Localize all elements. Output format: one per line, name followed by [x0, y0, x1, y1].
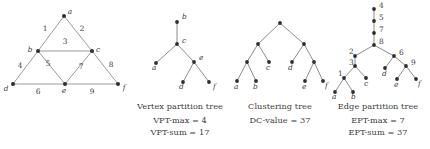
- graph-vertex-label-e: e: [62, 86, 67, 95]
- graph-vertex-label-d: d: [4, 84, 9, 93]
- dc-value: DC-value = 37: [228, 115, 332, 127]
- figure-container: 123456789abcdef bcaedf Vertex partition …: [0, 0, 430, 149]
- ept-sum-value: EPT-sum = 37: [326, 127, 430, 139]
- ept-max-value: EPT-max = 7: [326, 115, 430, 127]
- ct-edge: [247, 62, 256, 81]
- ct-edge: [237, 62, 247, 81]
- graph-edge-label-8: 8: [109, 60, 114, 69]
- vpt-label-f: f: [212, 82, 217, 91]
- ept-label-d: d: [382, 69, 387, 78]
- vpt-max-value: VPT-max = 4: [128, 115, 232, 127]
- graph-vertex-label-c: c: [96, 45, 100, 54]
- ept-edge: [406, 66, 416, 79]
- ct-node-r: [278, 21, 282, 25]
- ct-edge: [247, 44, 258, 62]
- graph-edge-label-1: 1: [43, 24, 48, 33]
- ept-node-7: [372, 31, 376, 35]
- ept-node-8: [372, 43, 376, 47]
- vpt-node-f: [207, 80, 211, 84]
- ept-edge: [394, 56, 406, 66]
- ct-edge: [304, 44, 314, 62]
- graph-edge-label-3: 3: [63, 37, 68, 46]
- ept-label-8: 8: [379, 37, 384, 46]
- ept-caption-title: Edge partition tree: [326, 101, 430, 113]
- panel-vertex-partition-tree: bcaedf Vertex partition tree VPT-max = 4…: [128, 0, 232, 149]
- vpt-caption-title: Vertex partition tree: [128, 101, 232, 113]
- ept-label-7: 7: [379, 25, 384, 34]
- vpt-node-c: [175, 42, 179, 46]
- ct-caption-title: Clustering tree: [228, 101, 332, 113]
- ept-label-9: 9: [411, 58, 416, 67]
- graph-edge-1: [38, 16, 64, 51]
- ct-edge: [314, 62, 323, 81]
- vpt-sum-value: VPT-sum = 17: [128, 127, 232, 139]
- graph-vertex-label-a: a: [68, 7, 72, 16]
- ept-label-b: b: [351, 92, 356, 100]
- ept-node-4: [372, 7, 376, 11]
- ept-node-6: [392, 54, 396, 58]
- graph-edge-label-7: 7: [79, 62, 84, 71]
- graph-edge-label-4: 4: [18, 61, 23, 70]
- vpt-node-b: [175, 20, 179, 24]
- ept-edge: [344, 66, 355, 78]
- graph-vertex-a: [62, 14, 66, 18]
- graph-edge-label-6: 6: [36, 87, 41, 96]
- vpt-edge: [177, 44, 194, 62]
- panel-clustering-tree: cdabef Clustering tree DC-value = 37: [228, 0, 332, 149]
- ct-label-d: d: [288, 63, 293, 72]
- ct-node-n3: [245, 60, 249, 64]
- graph-canvas: 123456789abcdef: [0, 0, 130, 100]
- ct-edge: [280, 23, 304, 44]
- graph-edge-label-9: 9: [90, 87, 95, 96]
- vpt-label-d: d: [179, 82, 184, 91]
- vpt-label-e: e: [199, 53, 204, 62]
- graph-edge-label-2: 2: [80, 24, 85, 33]
- graph-vertex-c: [90, 49, 94, 53]
- vpt-edge: [194, 62, 209, 82]
- ept-label-3: 3: [349, 58, 354, 67]
- ept-edge: [397, 66, 406, 79]
- ept-label-a: a: [332, 92, 336, 100]
- clustering-tree-drawing: cdabef: [228, 0, 332, 100]
- ept-edge: [355, 45, 374, 56]
- ept-edge: [374, 45, 394, 56]
- vertex-partition-tree-drawing: bcaedf: [128, 0, 232, 100]
- ept-label-c: c: [364, 79, 368, 88]
- ept-node-9: [404, 64, 408, 68]
- ept-label-f: f: [417, 79, 422, 88]
- panel-edge-partition-tree: 45782639d1cefab Edge partition tree EPT-…: [326, 0, 430, 149]
- ct-edge: [258, 44, 269, 62]
- ct-edge: [305, 62, 314, 81]
- ct-label-b: b: [253, 82, 258, 91]
- graph-vertex-f: [116, 82, 120, 86]
- ct-label-c: c: [266, 63, 270, 72]
- ct-node-n2: [302, 42, 306, 46]
- ept-label-2: 2: [349, 47, 354, 56]
- ct-edge: [258, 23, 280, 44]
- ept-label-1: 1: [338, 69, 343, 78]
- panel-graph: 123456789abcdef: [0, 0, 130, 149]
- ct-label-a: a: [234, 82, 238, 91]
- ept-edge: [344, 78, 353, 92]
- edge-partition-tree-drawing: 45782639d1cefab: [326, 0, 430, 100]
- graph-edge-2: [64, 16, 92, 51]
- ct-label-e: e: [302, 82, 307, 91]
- ept-node-5: [372, 19, 376, 23]
- vpt-label-a: a: [152, 63, 156, 72]
- ept-label-e: e: [394, 80, 399, 89]
- ept-edge: [355, 66, 366, 78]
- ct-node-n4: [312, 60, 316, 64]
- vpt-label-b: b: [182, 12, 187, 21]
- graph-drawing: 123456789abcdef: [0, 0, 130, 100]
- vpt-node-e: [192, 60, 196, 64]
- vpt-canvas: bcaedf: [128, 0, 232, 100]
- vpt-edge: [156, 44, 177, 63]
- graph-vertex-label-b: b: [28, 45, 33, 54]
- ept-edge: [335, 78, 344, 92]
- ct-node-n1: [256, 42, 260, 46]
- vpt-label-c: c: [182, 36, 186, 45]
- ept-edge: [385, 56, 394, 68]
- ept-label-4: 4: [379, 1, 384, 10]
- ct-canvas: cdabef: [228, 0, 332, 100]
- graph-vertex-label-f: f: [122, 83, 127, 92]
